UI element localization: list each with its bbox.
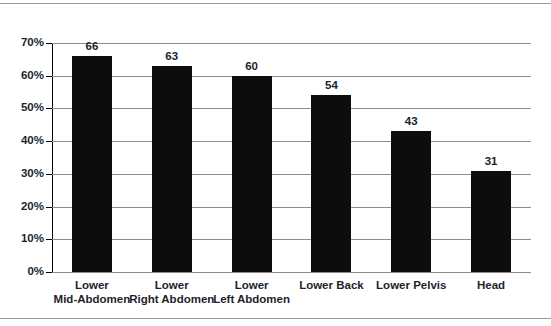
y-axis-tick-label: 40% (0, 134, 44, 146)
bar (72, 56, 112, 272)
gridline (52, 108, 531, 109)
bar (232, 76, 272, 272)
y-axis-tick-label: 30% (0, 167, 44, 179)
y-axis-tick-label: 0% (0, 265, 44, 277)
gridline (52, 76, 531, 77)
x-axis-label-line: Head (431, 278, 551, 292)
bar-value-label: 54 (301, 79, 361, 91)
y-axis-tick-label: 10% (0, 232, 44, 244)
bar-value-label: 60 (222, 60, 282, 72)
y-axis-tick-label: 20% (0, 200, 44, 212)
bar (152, 66, 192, 272)
gridline (52, 43, 531, 44)
gridline (52, 174, 531, 175)
plot-area (52, 43, 531, 272)
x-axis-category-label: Head (431, 278, 551, 292)
bar-value-label: 43 (381, 115, 441, 127)
bar (311, 95, 351, 272)
bar (471, 171, 511, 272)
bar-value-label: 63 (142, 50, 202, 62)
gridline (52, 207, 531, 208)
y-axis-tick-label: 60% (0, 69, 44, 81)
gridline (52, 272, 531, 273)
bar-value-label: 31 (461, 155, 521, 167)
gridline (52, 239, 531, 240)
gridline (52, 141, 531, 142)
bar (391, 131, 431, 272)
y-axis-tick-label: 70% (0, 36, 44, 48)
bar-value-label: 66 (62, 40, 122, 52)
x-axis-label-line: Left Abdomen (192, 292, 312, 306)
bar-chart: 0%10%20%30%40%50%60%70% 666360544331 Low… (0, 0, 551, 326)
y-axis-tick-label: 50% (0, 101, 44, 113)
